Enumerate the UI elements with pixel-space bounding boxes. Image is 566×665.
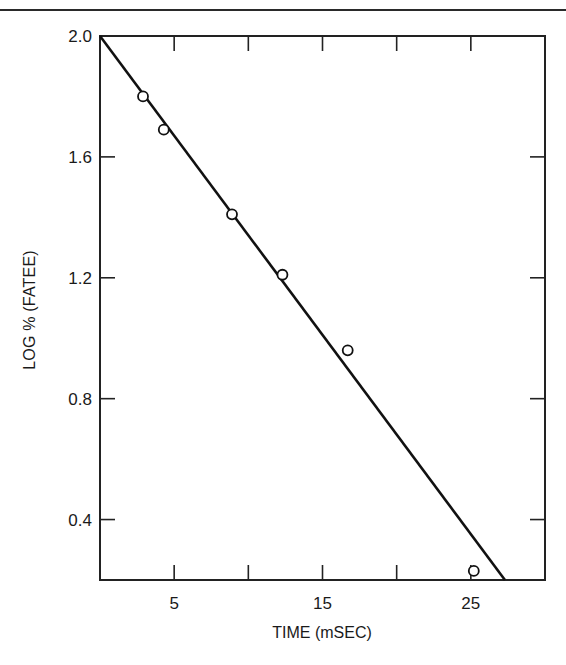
data-point-marker — [227, 209, 237, 219]
x-tick-label: 25 — [461, 594, 480, 613]
x-tick-label: 5 — [169, 594, 178, 613]
data-point-marker — [343, 345, 353, 355]
y-tick-label: 1.6 — [68, 148, 92, 167]
y-axis-label: LOG % (FATEE) — [21, 250, 39, 370]
regression-line — [100, 36, 505, 580]
y-tick-label: 1.2 — [68, 269, 92, 288]
data-point-marker — [138, 91, 148, 101]
y-tick-label: 0.8 — [68, 390, 92, 409]
data-point-marker — [277, 270, 287, 280]
y-tick-label: 0.4 — [68, 511, 92, 530]
plot-frame — [100, 36, 545, 580]
chart-plot-area: 515252.01.61.20.80.4 — [0, 0, 566, 665]
y-tick-label: 2.0 — [68, 27, 92, 46]
x-axis-label: TIME (mSEC) — [272, 624, 372, 642]
data-point-marker — [159, 125, 169, 135]
data-point-marker — [469, 566, 479, 576]
x-tick-label: 15 — [313, 594, 332, 613]
